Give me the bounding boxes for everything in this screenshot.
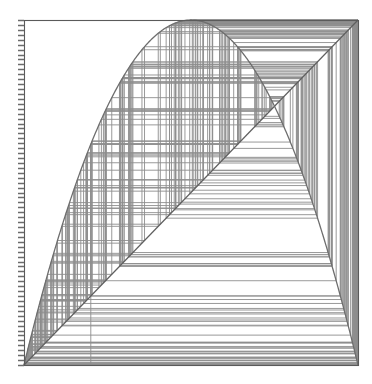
cobweb-plot-canvas bbox=[0, 0, 372, 384]
cobweb-figure: Cobweb diagram of the logistic map bbox=[0, 0, 372, 384]
